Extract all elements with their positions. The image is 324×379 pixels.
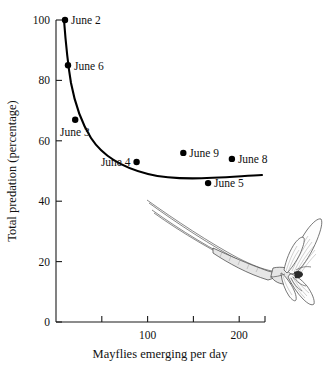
best-fit-curve	[64, 20, 262, 178]
data-point-june-5	[205, 180, 211, 186]
data-label-june-3: June 3	[60, 126, 90, 138]
y-tick-labels: 100 80 60 40 20 0	[33, 14, 51, 328]
data-point-june-4	[133, 159, 139, 165]
data-point-june-6	[65, 62, 71, 68]
x-tick-labels: 100 200	[139, 329, 248, 341]
y-tick-label-80: 80	[39, 74, 51, 86]
data-label-june-8: June 8	[238, 153, 268, 165]
x-tick-label-100: 100	[139, 329, 157, 341]
data-label-june-9: June 9	[189, 147, 219, 159]
x-tick-label-200: 200	[231, 329, 249, 341]
y-tick-label-60: 60	[39, 135, 51, 147]
y-tick-label-20: 20	[39, 256, 51, 268]
data-point-labels: June 2 June 6 June 3 June 4 June 9 June …	[60, 14, 268, 189]
x-axis-title: Mayflies emerging per day	[93, 347, 229, 361]
y-axis-title: Total predation (percentage)	[5, 100, 19, 241]
data-label-june-2: June 2	[71, 14, 101, 26]
data-point-june-9	[180, 150, 186, 156]
data-label-june-5: June 5	[214, 177, 244, 189]
mayfly-predation-chart: 100 80 60 40 20 0 100 200 Mayflies emerg…	[0, 0, 324, 379]
data-point-june-3	[72, 117, 78, 123]
mayfly-illustration	[147, 200, 322, 305]
data-label-june-4: June 4	[101, 156, 131, 168]
data-label-june-6: June 6	[74, 60, 104, 72]
data-point-june-8	[229, 156, 235, 162]
data-points	[62, 17, 235, 187]
y-tick-label-40: 40	[39, 195, 51, 207]
y-tick-label-100: 100	[33, 14, 51, 26]
data-point-june-2	[62, 17, 68, 23]
y-tick-label-0: 0	[44, 316, 50, 328]
chart-svg: 100 80 60 40 20 0 100 200 Mayflies emerg…	[0, 0, 324, 379]
